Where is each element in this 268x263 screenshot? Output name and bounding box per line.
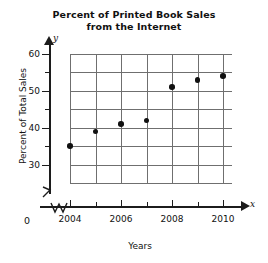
chart-title: Percent of Printed Book Sales from the I… bbox=[0, 9, 268, 33]
x-axis-tick-minor bbox=[96, 202, 97, 207]
data-point bbox=[195, 77, 201, 83]
y-axis-tick-minor bbox=[45, 146, 50, 147]
y-axis-tick bbox=[42, 128, 50, 129]
x-tick-label: 2010 bbox=[206, 214, 240, 224]
gridline-horizontal bbox=[70, 54, 232, 55]
gridline-horizontal bbox=[70, 165, 232, 166]
x-tick-label: 2006 bbox=[104, 214, 138, 224]
gridline-horizontal bbox=[70, 109, 232, 110]
gridline-horizontal bbox=[70, 146, 232, 147]
data-point bbox=[118, 121, 124, 127]
gridline-vertical bbox=[121, 54, 122, 183]
gridline-vertical bbox=[70, 54, 71, 183]
x-axis-arrow-icon bbox=[241, 201, 250, 211]
gridline-horizontal bbox=[70, 91, 232, 92]
plot-area bbox=[70, 54, 232, 183]
x-axis-letter: x bbox=[250, 199, 255, 209]
y-axis-tick-minor bbox=[45, 109, 50, 110]
data-point bbox=[67, 143, 73, 149]
chart-title-line-1: Percent of Printed Book Sales bbox=[0, 9, 268, 21]
data-point bbox=[169, 84, 175, 90]
gridline-vertical bbox=[198, 54, 199, 183]
gridline-vertical bbox=[172, 54, 173, 183]
x-tick-label: 2008 bbox=[155, 214, 189, 224]
gridline-horizontal bbox=[70, 183, 232, 184]
x-axis-tick bbox=[121, 200, 122, 207]
x-axis-tick-minor bbox=[198, 202, 199, 207]
origin-label: 0 bbox=[24, 215, 30, 226]
x-axis-tick-minor bbox=[147, 202, 148, 207]
y-axis-tick bbox=[42, 54, 50, 55]
y-axis-tick bbox=[42, 165, 50, 166]
gridline-horizontal bbox=[70, 72, 232, 73]
x-axis-title: Years bbox=[90, 241, 190, 251]
y-axis-letter: y bbox=[53, 33, 58, 43]
data-point bbox=[144, 118, 150, 124]
x-axis-tick bbox=[172, 200, 173, 207]
y-axis-title: Percent of Total Sales bbox=[18, 46, 28, 186]
y-axis-tick bbox=[42, 91, 50, 92]
gridline-vertical bbox=[96, 54, 97, 183]
y-axis-tick-minor bbox=[45, 72, 50, 73]
data-point bbox=[93, 129, 99, 135]
x-axis-tick bbox=[223, 200, 224, 207]
y-axis-line bbox=[49, 44, 51, 194]
data-point bbox=[220, 73, 226, 79]
chart-title-line-2: from the Internet bbox=[0, 21, 268, 33]
chart-container: Percent of Printed Book Sales from the I… bbox=[0, 0, 268, 263]
x-axis-break-icon bbox=[50, 200, 72, 219]
